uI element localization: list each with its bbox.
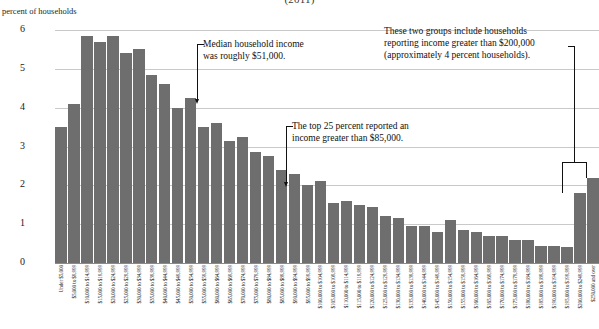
x-tick-label: $25,000 to $29,999	[120, 265, 132, 329]
x-tick-label: $45,000 to $49,999	[172, 265, 184, 329]
annotation-median-leader-stem	[197, 44, 198, 100]
x-tick-label-text: $190,000 to $194,999	[551, 265, 557, 309]
bar	[263, 156, 275, 263]
x-tick-label-text: Under $5,000	[58, 265, 64, 292]
income-distribution-chart: (2011) percent of households 0123456 Und…	[0, 0, 599, 329]
x-tick-label-text: $120,000 to $124,999	[369, 265, 375, 309]
bar	[522, 240, 534, 263]
bar	[172, 108, 184, 263]
bar	[211, 123, 223, 263]
bar	[185, 98, 197, 263]
bar	[81, 36, 93, 263]
bar	[471, 232, 483, 263]
annotation-top25-arrowhead	[284, 182, 288, 187]
y-axis-label: percent of households	[2, 6, 77, 17]
x-tick-label-text: $35,000 to $39,999	[149, 265, 155, 304]
x-tick-label: $55,000 to $59,999	[198, 265, 210, 329]
high-income-bracket-top	[562, 162, 587, 163]
x-tick-label-text: $180,000 to $184,999	[525, 265, 531, 309]
annotation-median-arrowhead	[195, 99, 199, 104]
x-tick-label: $145,000 to $149,999	[432, 265, 444, 329]
x-tick-label-text: $185,000 to $189,999	[538, 265, 544, 309]
x-tick-label: $120,000 to $124,999	[367, 265, 379, 329]
bar	[561, 247, 573, 263]
x-tick-label-text: $60,000 to $64,999	[214, 265, 220, 304]
bar	[587, 178, 599, 263]
x-tick-label: $80,000 to $84,999	[263, 265, 275, 329]
x-tick-label: $150,000 to $154,999	[445, 265, 457, 329]
x-tick-label: $170,000 to $174,999	[496, 265, 508, 329]
bar	[68, 104, 80, 263]
x-tick-label: $115,000 to $119,999	[354, 265, 366, 329]
x-tick-label: $20,000 to $24,999	[107, 265, 119, 329]
bar	[419, 226, 431, 263]
bar	[224, 141, 236, 263]
x-tick-label-text: $170,000 to $174,999	[499, 265, 505, 309]
y-tick-0: 0	[3, 256, 25, 267]
x-tick-label-text: $55,000 to $59,999	[201, 265, 207, 304]
bar	[509, 240, 521, 263]
x-tick-label: $125,000 to $129,999	[380, 265, 392, 329]
annotation-median-leader-top	[197, 44, 204, 45]
x-tick-label: $190,000 to $194,999	[548, 265, 560, 329]
bar	[198, 127, 210, 263]
x-tick-label-text: $15,000 to $19,999	[97, 265, 103, 304]
x-tick-label: $165,000 to $169,999	[483, 265, 495, 329]
high-income-bracket-right	[586, 162, 587, 178]
bar	[393, 218, 405, 263]
bar	[445, 220, 457, 263]
y-tick-5: 5	[3, 62, 25, 73]
x-tick-label: $180,000 to $184,999	[522, 265, 534, 329]
annotation-top25-leader-stem	[286, 126, 287, 183]
x-tick-label-text: $135,000 to $139,999	[408, 265, 414, 309]
chart-title: (2011)	[0, 0, 599, 5]
bar	[237, 137, 249, 263]
bar	[315, 181, 327, 263]
x-tick-label-text: $85,000 to $89,999	[279, 265, 285, 304]
x-tick-label: $130,000 to $134,999	[393, 265, 405, 329]
x-tick-label-text: $175,000 to $179,999	[512, 265, 518, 309]
x-tick-label: $35,000 to $39,999	[146, 265, 158, 329]
x-tick-label-text: $250,000 and over	[590, 265, 596, 302]
x-tick-label: $85,000 to $89,999	[276, 265, 288, 329]
bar-series	[55, 30, 599, 263]
bar	[328, 203, 340, 263]
x-tick-label: Under $5,000	[55, 265, 67, 329]
bar	[341, 201, 353, 263]
x-tick-label-text: $10,000 to $14,999	[84, 265, 90, 304]
x-tick-label: $30,000 to $34,999	[133, 265, 145, 329]
bar	[432, 232, 444, 263]
x-tick-label: $75,000 to $79,999	[250, 265, 262, 329]
x-tick-label-text: $50,000 to $54,999	[188, 265, 194, 304]
bar	[55, 127, 67, 263]
x-tick-label: $100,000 to $104,999	[315, 265, 327, 329]
bar	[535, 246, 547, 263]
x-tick-label-text: $195,000 to $199,999	[564, 265, 570, 309]
annotation-high-income: These two groups include households repo…	[384, 25, 535, 61]
high-income-bracket-left	[562, 162, 563, 193]
x-tick-label-text: $155,000 to $159,999	[460, 265, 466, 309]
bar	[406, 226, 418, 263]
x-tick-label-text: $95,000 to $99,999	[305, 265, 311, 304]
y-tick-6: 6	[3, 23, 25, 34]
bar	[107, 36, 119, 263]
y-tick-2: 2	[3, 178, 25, 189]
bar	[458, 230, 470, 263]
bar	[159, 84, 171, 263]
x-tick-labels: Under $5,000$5,000 to $9,999$10,000 to $…	[55, 265, 599, 329]
x-tick-label-text: $165,000 to $169,999	[486, 265, 492, 309]
x-tick-label-text: $25,000 to $29,999	[123, 265, 129, 304]
x-tick-label: $135,000 to $139,999	[406, 265, 418, 329]
x-tick-label-text: $90,000 to $94,999	[292, 265, 298, 304]
annotation-high-leader-stem	[574, 46, 575, 162]
bar	[146, 75, 158, 263]
x-tick-label: $160,000 to $164,999	[471, 265, 483, 329]
bar	[133, 49, 145, 263]
bar	[289, 174, 301, 263]
x-tick-label-text: $125,000 to $129,999	[382, 265, 388, 309]
x-tick-label-text: $45,000 to $49,999	[175, 265, 181, 304]
x-tick-label: $185,000 to $189,999	[535, 265, 547, 329]
bar	[302, 185, 314, 263]
annotation-top25-leader-top	[286, 126, 293, 127]
x-tick-label-text: $105,000 to $109,999	[330, 265, 336, 309]
